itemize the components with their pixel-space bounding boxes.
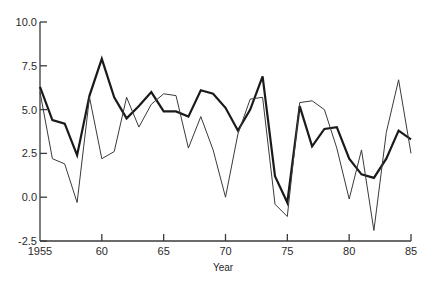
x-tick-label: 1955 [28,245,52,257]
y-tick-label: 0.0 [22,191,37,203]
tick-labels: 10.07.55.02.50.0-2.51955606570758085 [16,16,418,257]
y-tick-label: 7.5 [22,60,37,72]
y-tick-label: 10.0 [16,16,37,28]
y-tick-label: 2.5 [22,147,37,159]
series-line-thin [40,80,411,231]
x-tick-label: 70 [219,245,231,257]
axes [40,22,411,241]
series-line-thick [40,59,411,203]
x-tick-label: 75 [281,245,293,257]
line-chart: 10.07.55.02.50.0-2.51955606570758085 Yea… [0,0,436,283]
x-tick-label: 80 [343,245,355,257]
x-tick-label: 85 [405,245,417,257]
x-tick-label: 65 [158,245,170,257]
x-axis-title: Year [213,262,234,273]
y-tick-label: 5.0 [22,104,37,116]
series-group [40,59,411,231]
x-tick-label: 60 [96,245,108,257]
